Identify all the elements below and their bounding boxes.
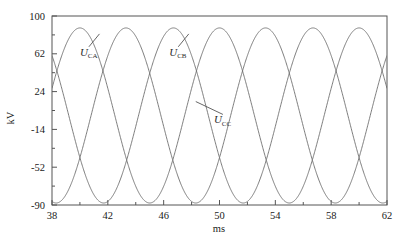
y-tick-label: -14 [31, 124, 46, 135]
series-label-u-cc: UCC [214, 113, 232, 128]
x-tick-label: 62 [382, 210, 393, 221]
series-label-u-cb: UCB [169, 46, 187, 61]
x-tick-label: 46 [158, 210, 169, 221]
x-tick-label: 54 [270, 210, 281, 221]
x-tick-label: 38 [47, 210, 58, 221]
y-tick-label: -90 [31, 200, 45, 211]
x-axis-ticks: 38424650545862 [47, 200, 393, 221]
y-tick-label: 62 [35, 48, 46, 59]
x-tick-label: 42 [103, 210, 114, 221]
series-annotations: UCAUCBUCC [80, 34, 232, 128]
y-tick-label: 100 [29, 11, 45, 22]
x-tick-label: 50 [214, 210, 225, 221]
y-tick-label: 24 [35, 86, 46, 97]
y-tick-label: -52 [31, 162, 45, 173]
waveform-chart: 38424650545862 -90-52-142462100 UCAUCBUC… [0, 0, 407, 244]
x-axis-title: ms [213, 223, 225, 234]
x-tick-label: 58 [326, 210, 337, 221]
chart-page: 38424650545862 -90-52-142462100 UCAUCBUC… [0, 0, 407, 244]
plot-frame [52, 16, 387, 205]
y-axis-ticks: -90-52-142462100 [29, 11, 57, 211]
y-axis-title: kV [5, 111, 16, 124]
